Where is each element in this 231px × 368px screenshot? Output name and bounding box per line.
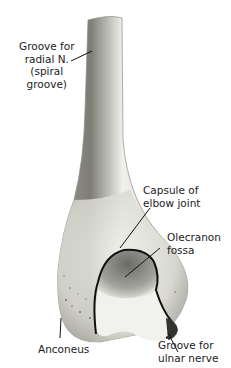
label-groove-radial-nerve: Groove for radial N. (spiral groove) xyxy=(19,40,75,90)
ulnar-groove xyxy=(166,318,178,340)
label-anconeus: Anconeus xyxy=(38,343,89,356)
label-capsule-elbow-joint: Capsule of elbow joint xyxy=(143,184,200,209)
label-olecranon-fossa: Olecranon fossa xyxy=(167,231,221,256)
label-groove-ulnar-nerve: Groove for ulnar nerve xyxy=(158,339,218,364)
